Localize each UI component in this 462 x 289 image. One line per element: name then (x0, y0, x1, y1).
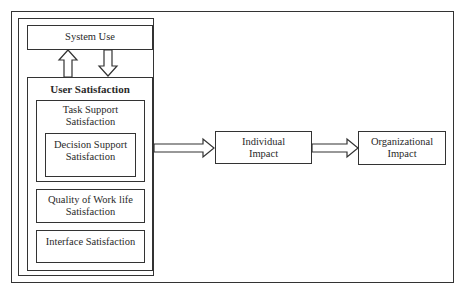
arrow-down-icon (99, 50, 117, 76)
connector-arrows (0, 0, 462, 289)
arrow-right-icon (154, 139, 214, 157)
arrow-up-icon (59, 50, 77, 77)
arrow-right-icon (312, 139, 358, 157)
